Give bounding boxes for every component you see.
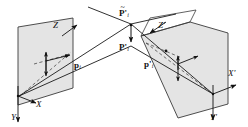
- label-left-axis-x: X: [36, 100, 42, 109]
- label-right-axis-y: Y': [210, 113, 217, 122]
- right-image-point-symbol: p': [144, 59, 152, 69]
- left-image-plane: [18, 18, 73, 105]
- right-ray-extension: [131, 14, 176, 24]
- label-true-3d-point: P'i: [119, 43, 129, 52]
- right-image-point-subscript: i: [152, 63, 154, 69]
- true-3d-point-symbol: P': [119, 42, 127, 52]
- label-right-image-point: p'i: [144, 60, 153, 69]
- true-3d-point-subscript: i: [127, 46, 129, 52]
- reconstruction-error-arrow: [130, 24, 133, 42]
- label-left-axis-z: Z: [53, 21, 58, 30]
- estimated-3d-point-subscript: i: [127, 12, 129, 18]
- left-image-point-marker: [65, 55, 68, 58]
- left-image-point-subscript: i: [79, 64, 81, 70]
- label-left-image-point: pi: [74, 61, 81, 70]
- tilde-accent-wrapper: ~P': [119, 9, 127, 18]
- label-right-axis-z: Z': [158, 21, 165, 30]
- figure-container: Z X Y Z' X' Y' pi p'i ~P'i P'i: [0, 0, 248, 127]
- label-right-axis-x: X': [228, 69, 235, 78]
- label-estimated-3d-point: ~P'i: [119, 9, 129, 18]
- label-left-axis-y: Y: [11, 113, 16, 122]
- right-image-point-marker: [165, 50, 168, 53]
- tilde-accent: ~: [120, 4, 124, 12]
